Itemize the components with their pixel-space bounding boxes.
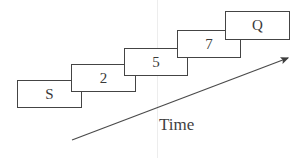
time-axis-caption: Time [159,115,194,135]
stage-s-label: S [45,87,53,102]
stage-q[interactable]: Q [225,11,290,40]
faint-guide-line [157,0,158,158]
stage-2-label: 2 [100,71,108,86]
stage-7-label: 7 [205,37,213,52]
stage-5-label: 5 [152,55,160,70]
diagram-canvas: S257Q Time [0,0,303,158]
stage-q-label: Q [252,18,263,33]
